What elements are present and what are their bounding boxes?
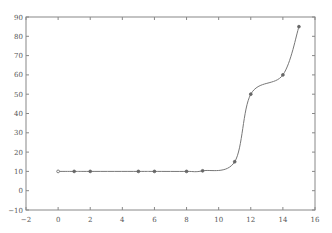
x-tick-label: −2: [21, 216, 31, 224]
y-tick-label: 80: [14, 33, 23, 41]
y-tick-label: 90: [14, 14, 23, 22]
data-point: [233, 160, 236, 163]
y-tick-label: 60: [14, 71, 23, 79]
data-point: [89, 170, 92, 173]
data-point: [137, 170, 140, 173]
interpolating-curve: [58, 27, 299, 172]
data-markers: [57, 25, 301, 173]
y-tick-label: 70: [14, 52, 23, 60]
x-tick-label: 14: [278, 216, 287, 224]
x-tick-label: 2: [88, 216, 92, 224]
data-point: [73, 170, 76, 173]
data-point: [57, 170, 60, 173]
x-tick-label: 8: [184, 216, 188, 224]
data-point: [201, 169, 204, 172]
y-tick-label: 50: [14, 91, 23, 99]
data-point: [298, 25, 301, 28]
y-tick-label: 20: [14, 149, 23, 157]
data-point: [281, 74, 284, 77]
data-point: [153, 170, 156, 173]
x-axis-ticks: −20246810121416: [21, 17, 320, 224]
chart: −20246810121416 −100102030405060708090: [0, 0, 332, 233]
data-point: [249, 93, 252, 96]
data-point: [185, 170, 188, 173]
x-tick-label: 12: [246, 216, 255, 224]
y-tick-label: −10: [8, 207, 23, 215]
y-tick-label: 10: [14, 168, 23, 176]
y-tick-label: 30: [14, 129, 23, 137]
y-tick-label: 0: [19, 187, 23, 195]
x-tick-label: 0: [56, 216, 60, 224]
x-tick-label: 4: [120, 216, 125, 224]
x-tick-label: 16: [311, 216, 320, 224]
plot-frame: [26, 17, 315, 210]
x-tick-label: 6: [152, 216, 157, 224]
x-tick-label: 10: [214, 216, 223, 224]
y-axis-ticks: −100102030405060708090: [8, 14, 315, 215]
y-tick-label: 40: [14, 110, 23, 118]
